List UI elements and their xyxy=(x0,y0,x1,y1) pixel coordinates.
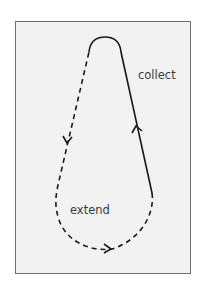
left-down-arrow-icon xyxy=(63,136,72,143)
loop-diagram xyxy=(0,0,201,293)
collect-label: collect xyxy=(138,70,176,82)
right-up-arrow-icon xyxy=(132,126,142,133)
collect-solid-path xyxy=(89,37,152,193)
extend-label: extend xyxy=(70,205,110,217)
bottom-right-arrow-icon xyxy=(104,244,111,253)
